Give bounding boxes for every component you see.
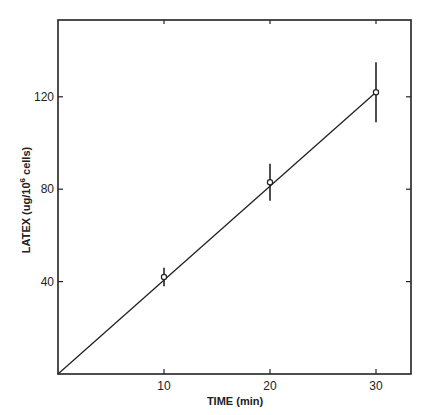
data-series — [58, 62, 379, 374]
y-tick-label: 80 — [41, 182, 55, 196]
x-axis-label: TIME (min) — [207, 395, 264, 407]
plot-frame — [58, 20, 411, 374]
y-tick-label: 120 — [34, 90, 54, 104]
y-axis-label: LATEX (ug/106 cells) — [18, 146, 32, 253]
y-tick-label: 40 — [41, 275, 55, 289]
latex-time-plot: 10 20 30 40 80 120 TIME (min) LATEX (ug/… — [0, 0, 434, 415]
x-tick-label: 20 — [263, 379, 277, 393]
x-tick-label: 30 — [369, 379, 383, 393]
chart: 10 20 30 40 80 120 TIME (min) LATEX (ug/… — [0, 0, 434, 415]
x-tick-label: 10 — [157, 379, 171, 393]
axis-ticks — [58, 20, 411, 374]
